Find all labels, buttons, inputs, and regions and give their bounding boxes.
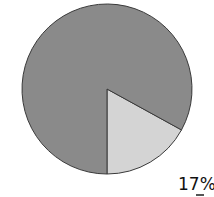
pie-chart bbox=[0, 0, 214, 197]
slice-label-17: 17% bbox=[178, 174, 214, 194]
label-underline bbox=[196, 194, 204, 196]
